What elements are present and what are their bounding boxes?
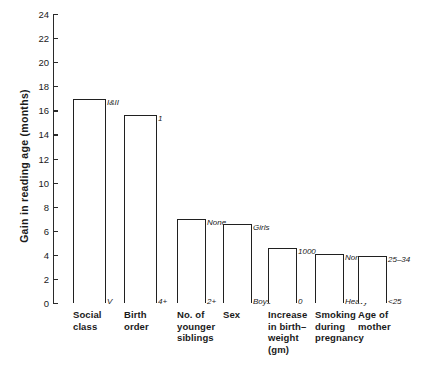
category-label-line: order (124, 321, 149, 333)
category-label-line: class (73, 321, 102, 333)
bar: I&IIV (73, 99, 106, 303)
y-tick-label: 14 (38, 129, 49, 140)
bar-bottom-label: <25 (388, 297, 402, 306)
category-label-line: Age of (358, 309, 391, 321)
bar-series: I&IIV14+None2+GirlsBoys10000NoneHeavy25–… (53, 14, 431, 303)
y-tick-label: 10 (38, 177, 49, 188)
y-tick-label: 4 (44, 249, 49, 260)
y-tick-label: 16 (38, 105, 49, 116)
y-tick-label: 8 (44, 201, 49, 212)
category-label-2: No. ofyoungersiblings (177, 309, 215, 344)
category-label-0: Socialclass (73, 309, 102, 332)
bar: None2+ (177, 219, 206, 303)
category-label-line: Sex (223, 309, 240, 321)
category-label-line: mother (358, 321, 391, 333)
y-tick-label: 6 (44, 225, 49, 236)
y-tick-label: 18 (38, 81, 49, 92)
category-label-5: Smokingduringpregnancy (315, 309, 364, 344)
bar-bottom-label: V (107, 297, 112, 306)
bar-bottom-label: 4+ (158, 297, 167, 306)
y-tick-label: 2 (44, 273, 49, 284)
category-label-line: pregnancy (315, 332, 364, 344)
bar: 14+ (124, 115, 157, 303)
y-tick-mark (53, 303, 58, 304)
category-label-line: younger (177, 321, 215, 333)
bar-bottom-label: 2+ (207, 297, 216, 306)
y-axis-title: Gain in reading age (months) (18, 66, 30, 266)
y-tick-label: 24 (38, 9, 49, 20)
bar: 25–34<25 (358, 256, 387, 303)
y-tick-label: 20 (38, 57, 49, 68)
category-label-line: (gm) (268, 344, 307, 356)
plot-area: 024681012141618202224 I&IIV14+None2+Girl… (53, 14, 431, 303)
y-tick-label: 12 (38, 153, 49, 164)
category-label-4: Increasein birth–weight(gm) (268, 309, 307, 355)
category-label-line: Social (73, 309, 102, 321)
x-axis-category-labels: SocialclassBirthorderNo. ofyoungersiblin… (53, 309, 431, 365)
bar-top-label: 1000 (298, 247, 316, 256)
category-label-line: weight (268, 332, 307, 344)
bar-top-label: 25–34 (388, 255, 410, 264)
bar-top-label: 1 (158, 114, 162, 123)
reading-age-gain-bar-chart: Gain in reading age (months) 02468101214… (0, 0, 436, 365)
category-label-1: Birthorder (124, 309, 149, 332)
bar: GirlsBoys (223, 224, 252, 303)
category-label-line: Smoking (315, 309, 364, 321)
bar: NoneHeavy (315, 254, 344, 303)
category-label-3: Sex (223, 309, 240, 321)
category-label-line: No. of (177, 309, 215, 321)
bar: 10000 (268, 248, 297, 303)
category-label-line: Birth (124, 309, 149, 321)
y-tick-label: 0 (44, 298, 49, 309)
category-label-line: Increase (268, 309, 307, 321)
y-tick-label: 22 (38, 33, 49, 44)
category-label-6: Age ofmother (358, 309, 391, 332)
category-label-line: during (315, 321, 364, 333)
bar-top-label: I&II (107, 98, 119, 107)
category-label-line: siblings (177, 332, 215, 344)
bar-bottom-label: 0 (298, 297, 302, 306)
bar-top-label: Girls (253, 223, 269, 232)
category-label-line: in birth– (268, 321, 307, 333)
